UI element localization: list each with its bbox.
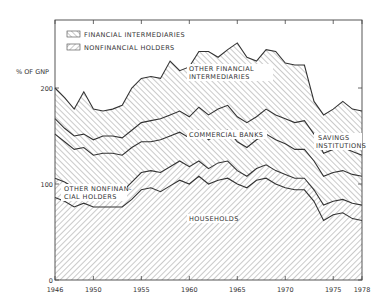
x-tick-label: 1965 <box>229 286 246 294</box>
stacked-area-chart: 194619501955196019651970197519780100200 … <box>0 0 383 303</box>
annotation-other-financial-2: INTERMEDIARIES <box>189 73 250 81</box>
annotation-commercial-banks: COMMERCIAL BANKS <box>189 131 263 139</box>
y-tick-label: 100 <box>41 181 53 189</box>
x-tick-label: 1978 <box>354 286 371 294</box>
annotation-other-nonfinancial-2: CIAL HOLDERS <box>64 193 117 201</box>
legend-label-financial: FINANCIAL INTERMEDIARIES <box>84 31 185 39</box>
y-tick-label: 0 <box>49 277 53 285</box>
x-tick-label: 1960 <box>181 286 198 294</box>
annotation-savings-2: INSTITUTIONS <box>316 142 366 150</box>
x-tick-label: 1950 <box>85 286 102 294</box>
y-tick-label: 200 <box>41 85 53 93</box>
annotation-households: HOUSEHOLDS <box>189 215 239 223</box>
y-axis-label: % OF GNP <box>16 68 49 76</box>
legend: FINANCIAL INTERMEDIARIES NONFINANCIAL HO… <box>67 31 185 52</box>
x-tick-label: 1970 <box>277 286 294 294</box>
annotation-savings: SAVINGS <box>318 134 349 142</box>
x-tick-label: 1955 <box>133 286 150 294</box>
annotation-other-financial: OTHER FINANCIAL <box>189 65 254 73</box>
x-tick-label: 1946 <box>47 286 64 294</box>
legend-swatch-nonfinancial <box>67 44 80 50</box>
annotation-other-nonfinancial: OTHER NONFINAN- <box>64 185 132 193</box>
legend-label-nonfinancial: NONFINANCIAL HOLDERS <box>84 44 175 52</box>
legend-swatch-financial <box>67 31 80 37</box>
x-tick-label: 1975 <box>325 286 342 294</box>
